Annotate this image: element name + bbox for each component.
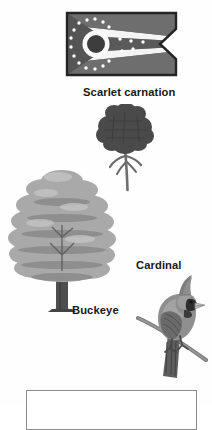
ohio-flag-figure [65,11,178,77]
ohio-burgee-flag-icon [65,11,178,77]
buckeye-label: Buckeye [72,305,119,316]
answer-box[interactable] [26,390,197,430]
buckeye-tree-figure [8,163,116,316]
scarlet-carnation-label: Scarlet carnation [83,87,175,98]
cardinal-bird-icon [136,272,208,382]
cardinal-label: Cardinal [136,260,182,271]
buckeye-tree-icon [8,163,116,316]
cardinal-figure [136,272,208,382]
